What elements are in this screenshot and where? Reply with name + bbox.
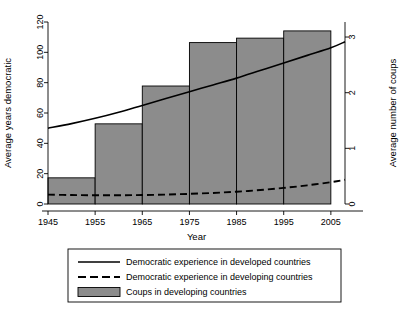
x-tick-label: 1995 — [274, 217, 294, 227]
y2-axis-title: Average number of coups — [387, 58, 398, 167]
y-tick-label: 100 — [35, 45, 45, 60]
bar — [189, 43, 236, 204]
y2-tick-label: 2 — [347, 90, 357, 95]
legend-filled-box-icon — [78, 288, 120, 297]
y-axis-title: Average years democratic — [2, 58, 13, 168]
bar — [95, 124, 142, 204]
x-axis-title: Year — [187, 231, 206, 242]
legend-item-label: Democratic experience in developed count… — [126, 257, 311, 267]
x-tick-label: 1955 — [85, 217, 105, 227]
bar-rect — [284, 31, 331, 204]
legend-item: Coups in developing countries — [78, 287, 247, 297]
bar-rect — [189, 43, 236, 204]
bar-rect — [95, 124, 142, 204]
legend-item-label: Democratic experience in developing coun… — [126, 272, 313, 282]
x-tick-label: 1975 — [179, 217, 199, 227]
y-tick-label: 120 — [35, 14, 45, 29]
y-tick-label: 20 — [35, 169, 45, 179]
legend: Democratic experience in developed count… — [68, 249, 341, 302]
bar — [237, 38, 284, 204]
legend-item-label: Coups in developing countries — [126, 287, 247, 297]
y-tick-label: 0 — [35, 201, 45, 206]
chart-figure: 0204060801001200123194519551965197519851… — [0, 0, 409, 313]
chart-canvas: 0204060801001200123194519551965197519851… — [0, 0, 409, 313]
x-tick-label: 1965 — [132, 217, 152, 227]
bar-rect — [48, 178, 95, 204]
y-tick-label: 80 — [35, 78, 45, 88]
x-tick-label: 2005 — [321, 217, 341, 227]
bar-series — [48, 31, 331, 204]
y2-tick-label: 3 — [347, 35, 357, 40]
bar-rect — [237, 38, 284, 204]
x-tick-label: 1945 — [38, 217, 58, 227]
bar — [48, 178, 95, 204]
y-tick-label: 40 — [35, 138, 45, 148]
x-tick-label: 1985 — [227, 217, 247, 227]
y2-tick-label: 0 — [347, 201, 357, 206]
y-tick-label: 60 — [35, 108, 45, 118]
bar — [284, 31, 331, 204]
y2-tick-label: 1 — [347, 146, 357, 151]
